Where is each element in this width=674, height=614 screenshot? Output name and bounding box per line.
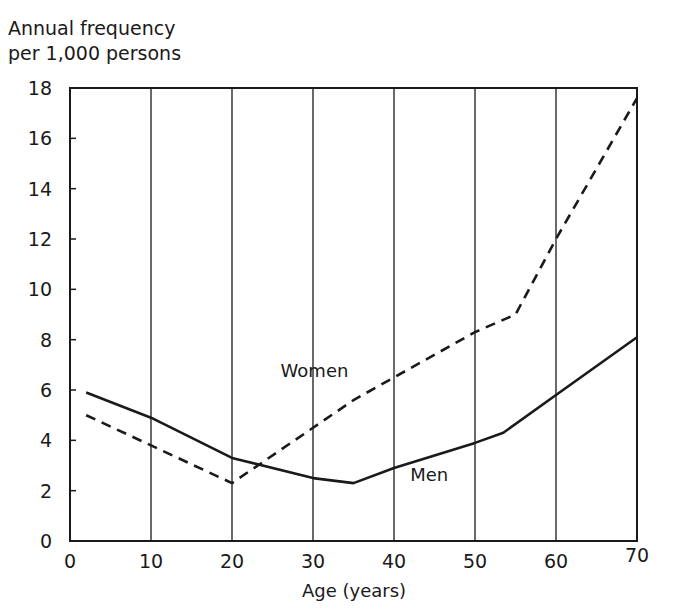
y-tick-label: 2 [40,480,52,502]
line-chart: 024681012141618 010203040506070 WomenMen… [0,0,674,614]
x-tick-label: 70 [625,544,649,566]
y-tick-label: 6 [40,379,52,401]
x-tick-label: 60 [544,550,568,572]
x-axis-ticks: 010203040506070 [64,544,649,572]
data-series: WomenMen [86,98,637,485]
plot-frame [70,88,637,541]
y-tick-label: 14 [28,178,52,200]
y-tick-label: 4 [40,429,52,451]
series-label-women: Women [281,360,349,381]
y-tick-label: 12 [28,228,52,250]
x-tick-label: 0 [64,550,76,572]
y-tick-label: 16 [28,127,52,149]
series-line-men [86,337,637,483]
x-tick-label: 40 [382,550,406,572]
y-tick-label: 10 [28,278,52,300]
y-tick-label: 18 [28,77,52,99]
x-tick-label: 10 [139,550,163,572]
x-tick-label: 50 [463,550,487,572]
y-axis-ticks: 024681012141618 [28,77,76,552]
series-label-men: Men [410,464,448,485]
x-tick-label: 20 [220,550,244,572]
x-axis-title: Age (years) [302,580,406,601]
x-tick-label: 30 [301,550,325,572]
y-tick-label: 8 [40,329,52,351]
y-tick-label: 0 [40,530,52,552]
